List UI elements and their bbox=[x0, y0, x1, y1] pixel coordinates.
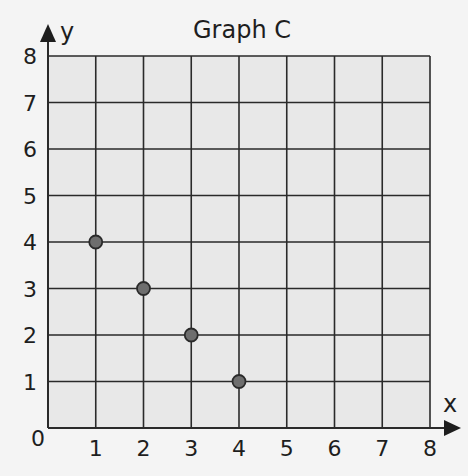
chart-title: Graph C bbox=[193, 16, 291, 44]
y-tick-label: 5 bbox=[23, 184, 37, 209]
graph-c-chart: 01234567812345678 Graph C y x bbox=[0, 0, 468, 476]
y-tick-label: 3 bbox=[23, 277, 37, 302]
data-point bbox=[185, 329, 198, 342]
x-tick-label: 0 bbox=[31, 426, 45, 451]
x-tick-label: 7 bbox=[375, 436, 389, 461]
y-tick-label: 7 bbox=[23, 91, 37, 116]
y-tick-label: 1 bbox=[23, 370, 37, 395]
y-tick-label: 8 bbox=[23, 44, 37, 69]
x-tick-label: 1 bbox=[89, 436, 103, 461]
x-axis-arrow-icon bbox=[444, 420, 461, 436]
x-tick-label: 8 bbox=[423, 436, 437, 461]
y-tick-label: 4 bbox=[23, 230, 37, 255]
y-axis-label: y bbox=[60, 18, 74, 46]
y-tick-label: 2 bbox=[23, 323, 37, 348]
x-tick-label: 3 bbox=[184, 436, 198, 461]
data-point bbox=[89, 236, 102, 249]
x-tick-label: 2 bbox=[137, 436, 151, 461]
x-tick-label: 6 bbox=[328, 436, 342, 461]
data-point bbox=[137, 282, 150, 295]
x-tick-label: 4 bbox=[232, 436, 246, 461]
data-point bbox=[233, 375, 246, 388]
x-axis-label: x bbox=[443, 390, 457, 418]
y-axis-arrow-icon bbox=[40, 24, 56, 42]
y-tick-label: 6 bbox=[23, 137, 37, 162]
x-tick-label: 5 bbox=[280, 436, 294, 461]
